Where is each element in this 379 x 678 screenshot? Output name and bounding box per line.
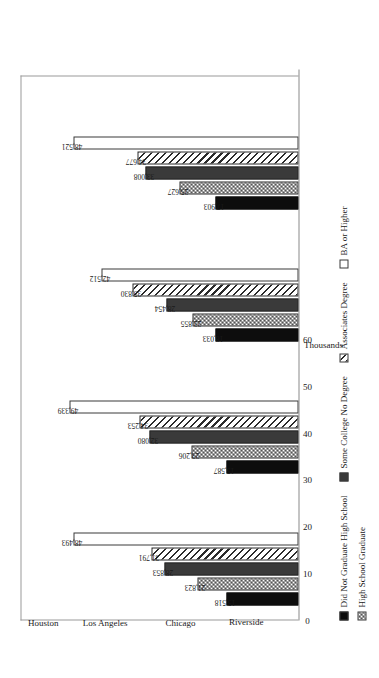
bar-chicago-associates-degree[interactable]: 35,830 <box>132 283 298 296</box>
bar-houston-high-school-graduate[interactable]: 21,823 <box>197 577 298 590</box>
legend-item-some-college-no-degree[interactable]: Some College No Degree <box>338 376 348 481</box>
bar-value-label: 15,587 <box>214 467 235 475</box>
value-axis-title: Thousands <box>318 69 328 620</box>
bar-los-angeles-ba-or-higher[interactable]: 49,339 <box>69 400 298 413</box>
bar-group-houston: 15,518 21,823 28,853 31,791 48,493 <box>20 485 298 605</box>
legend-item-high-school-graduate[interactable]: High School Graduate <box>356 527 366 620</box>
legend-swatch-solid-black-icon <box>339 611 348 620</box>
bar-group-riverside: 17,903 25,627 33,008 34,677 48,521 <box>20 89 298 209</box>
bar-riverside-high-school-graduate[interactable]: 25,627 <box>179 181 298 194</box>
bar-riverside-associates-degree[interactable]: 34,677 <box>137 151 298 164</box>
legend-item-ba-or-higher[interactable]: BA or Higher <box>338 206 348 268</box>
bar-value-label: 18,033 <box>202 335 223 343</box>
category-label-riverside: Riverside <box>258 622 268 678</box>
bar-value-label: 49,339 <box>57 407 78 415</box>
legend-swatch-checkerboard-icon <box>357 611 366 620</box>
bar-value-label: 17,903 <box>203 203 224 211</box>
legend: Did Not Graduate High School Some Colleg… <box>336 69 376 620</box>
bar-chicago-some-college-no-degree[interactable]: 28,454 <box>166 298 298 311</box>
legend-swatch-diagonal-hatch-icon <box>339 353 348 362</box>
bar-value-label: 48,493 <box>61 539 82 547</box>
value-tick-20: 20 <box>302 522 312 531</box>
bar-chicago-ba-or-higher[interactable]: 42,512 <box>101 268 298 281</box>
bar-value-label: 48,521 <box>61 143 82 151</box>
bar-los-angeles-did-not-graduate-high-school[interactable]: 15,587 <box>226 460 298 473</box>
value-tick-40: 40 <box>302 428 312 437</box>
bar-chicago-did-not-graduate-high-school[interactable]: 18,033 <box>215 328 299 341</box>
plot-area: 15,518 21,823 28,853 31,791 48,493 15, <box>20 75 298 620</box>
legend-swatch-open-white-icon <box>339 259 348 268</box>
legend-label: Associates Degree <box>338 282 348 349</box>
category-label-chicago: Chicago <box>190 622 200 678</box>
bar-value-label: 21,823 <box>185 584 206 592</box>
bar-group-los-angeles: 15,587 23,206 32,080 34,253 49,339 <box>20 353 298 473</box>
bar-value-label: 33,008 <box>133 173 154 181</box>
bar-los-angeles-some-college-no-degree[interactable]: 32,080 <box>149 430 298 443</box>
value-tick-0: 0 <box>302 618 312 623</box>
bar-value-label: 23,206 <box>178 452 199 460</box>
bar-houston-associates-degree[interactable]: 31,791 <box>151 547 298 560</box>
legend-item-did-not-graduate-high-school[interactable]: Did Not Graduate High School <box>338 495 348 620</box>
legend-row-primary: Did Not Graduate High School Some Colleg… <box>338 69 348 620</box>
bar-riverside-did-not-graduate-high-school[interactable]: 17,903 <box>215 196 298 209</box>
chart-page: 15,518 21,823 28,853 31,791 48,493 15, <box>0 0 379 678</box>
bar-chicago-high-school-graduate[interactable]: 22,855 <box>192 313 298 326</box>
value-axis-line <box>298 69 299 620</box>
bar-value-label: 32,080 <box>137 437 158 445</box>
legend-swatch-solid-dark-grey-icon <box>339 472 348 481</box>
value-tick-10: 10 <box>302 569 312 578</box>
rotated-figure: 15,518 21,823 28,853 31,791 48,493 15, <box>0 0 379 678</box>
bar-value-label: 34,677 <box>125 158 146 166</box>
bar-value-label: 15,518 <box>214 599 235 607</box>
value-tick-30: 30 <box>302 475 312 484</box>
bar-value-label: 34,253 <box>127 422 148 430</box>
legend-label: BA or Higher <box>338 206 348 255</box>
value-tick-50: 50 <box>302 381 312 390</box>
bar-value-label: 42,512 <box>89 275 110 283</box>
bar-value-label: 22,855 <box>180 320 201 328</box>
category-label-houston: Houston <box>53 622 63 678</box>
bar-riverside-ba-or-higher[interactable]: 48,521 <box>73 136 298 149</box>
legend-row-secondary: High School Graduate <box>356 69 366 620</box>
legend-label: Did Not Graduate High School <box>338 495 348 607</box>
bar-value-label: 28,454 <box>154 305 175 313</box>
bar-value-label: 28,853 <box>152 569 173 577</box>
bar-los-angeles-high-school-graduate[interactable]: 23,206 <box>191 445 299 458</box>
bar-riverside-some-college-no-degree[interactable]: 33,008 <box>145 166 298 179</box>
bar-value-label: 35,830 <box>120 290 141 298</box>
bar-value-label: 31,791 <box>138 554 159 562</box>
bar-los-angeles-associates-degree[interactable]: 34,253 <box>139 415 298 428</box>
legend-label: High School Graduate <box>356 527 366 607</box>
category-label-los-angeles: Los Angeles <box>122 622 132 678</box>
bar-houston-did-not-graduate-high-school[interactable]: 15,518 <box>226 592 298 605</box>
bar-value-label: 25,627 <box>167 188 188 196</box>
legend-label: Some College No Degree <box>338 376 348 468</box>
legend-item-associates-degree[interactable]: Associates Degree <box>338 282 348 362</box>
bar-houston-some-college-no-degree[interactable]: 28,853 <box>164 562 298 575</box>
bar-houston-ba-or-higher[interactable]: 48,493 <box>73 532 298 545</box>
bar-group-chicago: 18,033 22,855 28,454 35,830 42,512 <box>20 221 298 341</box>
